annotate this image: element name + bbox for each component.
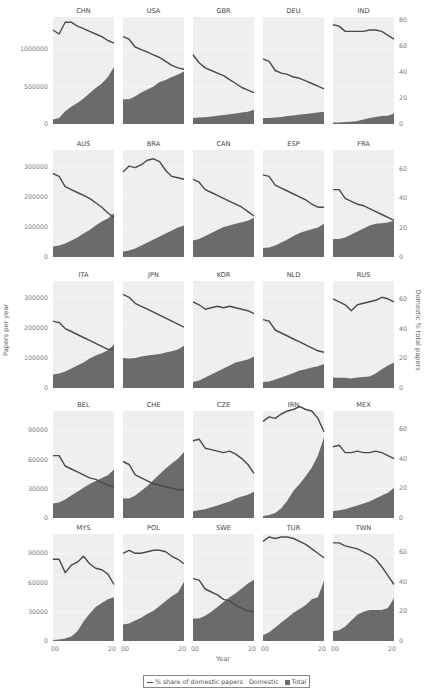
panel-title: AUS (77, 140, 91, 148)
y2-tick-label: 40 (399, 194, 407, 201)
y-axis-label-right: Domestic % total papers (414, 289, 422, 371)
panel-title: TUR (286, 524, 301, 532)
panel-background (263, 17, 324, 124)
y-tick-label: 200000 (24, 324, 48, 331)
x-tick-label: 20 (388, 645, 396, 652)
panel-title: MEX (356, 401, 371, 409)
faceted-chart: 05000001000000020406080CHNUSAGBRDEUIND01… (0, 0, 426, 693)
y2-tick-label: 0 (399, 514, 403, 521)
y2-tick-label: 40 (399, 68, 407, 75)
panel-title: CHE (147, 401, 161, 409)
facet-panel-che: CHE (123, 401, 184, 518)
facet-panel-tur: TUR (263, 524, 324, 641)
panel-title: ESP (287, 140, 299, 148)
x-tick-label: 20 (178, 645, 186, 652)
y2-tick-label: 0 (399, 384, 403, 391)
facet-panel-twn: TWN (333, 524, 394, 641)
panel-title: BEL (77, 401, 90, 409)
x-axis-label: Year (215, 655, 230, 663)
panel-title: IND (358, 7, 370, 15)
y2-tick-label: 20 (399, 94, 407, 101)
box-swatch-icon (285, 680, 290, 685)
y-tick-label: 0 (44, 514, 48, 521)
y2-tick-label: 40 (399, 578, 407, 585)
facet-panel-fra: FRA (333, 140, 394, 257)
y-tick-label: 30000 (28, 608, 48, 615)
panel-grid: 05000001000000020406080CHNUSAGBRDEUIND01… (20, 7, 407, 652)
y-tick-label: 300000 (24, 294, 48, 301)
facet-panel-swe: SWE (193, 524, 254, 641)
panel-title: RUS (357, 271, 371, 279)
facet-panel-ita: ITA (53, 271, 114, 388)
x-tick-label: 00 (51, 645, 59, 652)
y-tick-label: 1000000 (20, 45, 48, 52)
y-tick-label: 60000 (28, 456, 48, 463)
panel-title: ITA (79, 271, 89, 279)
panel-title: KOR (217, 271, 231, 279)
y-tick-label: 90000 (28, 549, 48, 556)
facet-panel-usa: USA (123, 7, 184, 124)
panel-title: FRA (357, 140, 370, 148)
facet-panel-nld: NLD (263, 271, 324, 388)
y2-tick-label: 60 (399, 295, 407, 302)
y2-tick-label: 0 (399, 253, 403, 260)
facet-panel-jpn: JPN (123, 271, 184, 388)
legend-label: % share of domestic papers (155, 678, 243, 685)
y2-tick-label: 20 (399, 607, 407, 614)
y-axis-label-left: Papers per year (2, 304, 10, 356)
y-tick-label: 300000 (24, 163, 48, 170)
panel-title: BRA (147, 140, 161, 148)
panel-title: CAN (216, 140, 230, 148)
facet-panel-esp: ESP (263, 140, 324, 257)
y2-tick-label: 60 (399, 425, 407, 432)
facet-panel-can: CAN (193, 140, 254, 257)
panel-title: DEU (286, 7, 300, 15)
y2-tick-label: 20 (399, 354, 407, 361)
panel-title: MYS (77, 524, 91, 532)
facet-panel-rus: RUS (333, 271, 394, 388)
y2-tick-label: 40 (399, 325, 407, 332)
panel-title: TWN (355, 524, 372, 532)
y-tick-label: 60000 (28, 579, 48, 586)
legend-item-domestic: Domestic (249, 678, 279, 685)
panel-title: NLD (287, 271, 301, 279)
y-tick-label: 100000 (24, 223, 48, 230)
facet-panel-gbr: GBR (193, 7, 254, 124)
y2-tick-label: 60 (399, 548, 407, 555)
facet-panel-kor: KOR (193, 271, 254, 388)
x-tick-label: 20 (318, 645, 326, 652)
panel-title: USA (147, 7, 161, 15)
panel-title: GBR (216, 7, 231, 15)
y-tick-label: 500000 (24, 83, 48, 90)
legend-item-total: Total (285, 678, 307, 685)
facet-panel-bel: BEL (53, 401, 114, 518)
facet-panel-mys: MYS (53, 524, 114, 641)
line-swatch-icon (147, 682, 153, 684)
legend-label: Domestic (249, 678, 279, 685)
x-tick-label: 00 (331, 645, 339, 652)
x-tick-label: 20 (108, 645, 116, 652)
facet-panel-irn: IRN (263, 401, 324, 518)
facet-panel-cze: CZE (193, 401, 254, 518)
y2-tick-label: 20 (399, 484, 407, 491)
y2-tick-label: 0 (399, 637, 403, 644)
panel-title: CZE (217, 401, 230, 409)
y-tick-label: 0 (44, 384, 48, 391)
y-tick-label: 0 (44, 253, 48, 260)
panel-title: IRN (288, 401, 300, 409)
y-tick-label: 30000 (28, 485, 48, 492)
panel-title: POL (147, 524, 160, 532)
panel-title: CHN (76, 7, 91, 15)
y2-tick-label: 60 (399, 165, 407, 172)
x-tick-label: 00 (121, 645, 129, 652)
facet-panel-bra: BRA (123, 140, 184, 257)
y-tick-label: 200000 (24, 193, 48, 200)
legend-item-share: % share of domestic papers (147, 678, 243, 685)
y-tick-label: 0 (44, 120, 48, 127)
y2-tick-label: 20 (399, 224, 407, 231)
y-tick-label: 0 (44, 637, 48, 644)
panel-title: SWE (216, 524, 231, 532)
legend: % share of domestic papers Domestic Tota… (143, 675, 310, 688)
y2-tick-label: 0 (399, 120, 403, 127)
y-tick-label: 90000 (28, 426, 48, 433)
